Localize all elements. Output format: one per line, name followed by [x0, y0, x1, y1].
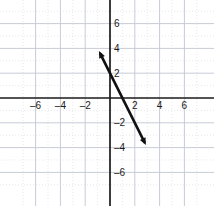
x-tick-label: 2: [132, 100, 138, 111]
graph-canvas: –6–4–2246642–2–4–6: [0, 0, 214, 206]
y-tick-label: –6: [114, 167, 126, 178]
x-tick-label: –6: [30, 100, 42, 111]
y-tick-label: –4: [114, 142, 126, 153]
x-tick-label: –2: [80, 100, 92, 111]
x-tick-label: 4: [157, 100, 163, 111]
y-tick-label: 6: [114, 18, 120, 29]
x-tick-label: 6: [182, 100, 188, 111]
y-tick-label: –2: [114, 117, 126, 128]
x-tick-label: –4: [55, 100, 67, 111]
y-tick-label: 4: [114, 43, 120, 54]
coordinate-graph: –6–4–2246642–2–4–6: [0, 0, 214, 206]
y-tick-label: 2: [114, 68, 120, 79]
